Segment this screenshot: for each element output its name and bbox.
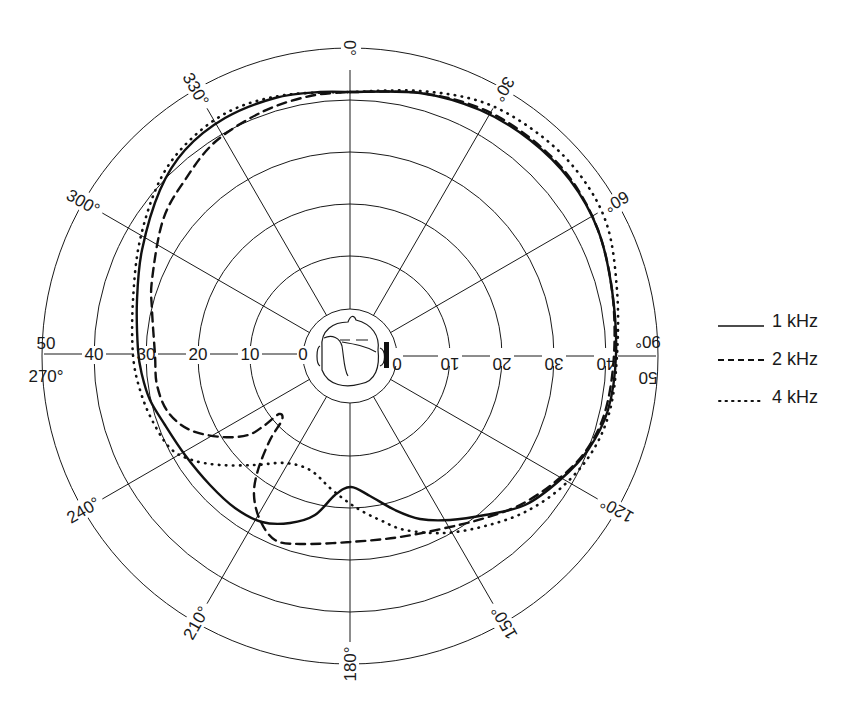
angle-label-240: 240° <box>60 490 105 528</box>
legend: 1 kHz 2 kHz 4 kHz <box>716 302 818 416</box>
angle-label-180: 180° <box>339 644 360 684</box>
right-tick-50: 50 <box>639 368 658 387</box>
angle-label-60: 60° <box>599 186 635 219</box>
series-curves <box>132 90 618 544</box>
right-tick-30: 30 <box>545 354 564 373</box>
angle-label-90: 90° <box>635 332 661 351</box>
listener-head-icon <box>317 316 389 385</box>
angle-label-330: 330° <box>177 66 215 111</box>
angle-label-210: 210° <box>176 600 214 645</box>
right-tick-10: 10 <box>441 354 460 373</box>
right-tick-0: 0 <box>392 354 401 373</box>
legend-label: 4 kHz <box>772 387 818 408</box>
curve-1-khz <box>137 91 616 523</box>
radial-tick-labels: 0010102020303040405050 <box>37 334 658 387</box>
right-tick-20: 20 <box>493 354 512 373</box>
angle-label-150: 150° <box>484 600 522 645</box>
dotted-line-icon <box>716 390 766 404</box>
legend-item-4khz: 4 kHz <box>716 378 818 416</box>
svg-text:0°: 0° <box>340 40 359 56</box>
left-tick-20: 20 <box>189 345 208 364</box>
solid-line-icon <box>716 314 766 328</box>
left-tick-10: 10 <box>241 345 260 364</box>
legend-item-2khz: 2 kHz <box>716 340 818 378</box>
angle-label-0: 0° <box>340 38 361 58</box>
ear-marker-bar <box>384 342 389 368</box>
angle-label-30: 30° <box>488 71 521 107</box>
svg-text:270°: 270° <box>28 367 63 386</box>
legend-label: 1 kHz <box>772 311 818 332</box>
svg-text:90°: 90° <box>635 332 661 351</box>
left-tick-50: 50 <box>37 334 56 353</box>
legend-item-1khz: 1 kHz <box>716 302 818 340</box>
legend-label: 2 kHz <box>772 349 818 370</box>
angle-label-120: 120° <box>594 491 639 529</box>
curve-2-khz <box>151 92 615 545</box>
angle-label-300: 300° <box>61 182 106 220</box>
dashed-line-icon <box>716 352 766 366</box>
left-tick-40: 40 <box>85 345 104 364</box>
angle-label-270: 270° <box>28 367 63 386</box>
svg-text:180°: 180° <box>341 646 360 681</box>
left-tick-0: 0 <box>298 345 307 364</box>
